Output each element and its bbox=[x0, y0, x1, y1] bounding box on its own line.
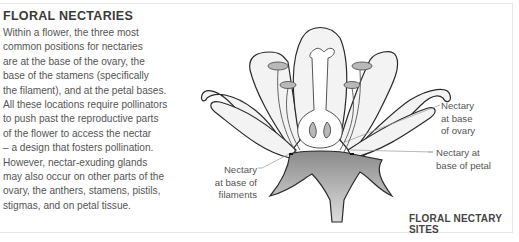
label-line: at base of bbox=[197, 177, 257, 190]
label-line: Nectary bbox=[441, 100, 475, 113]
label-nectary-ovary: Nectary at base of ovary bbox=[441, 100, 475, 138]
label-nectary-petal: Nectary at base of petal bbox=[436, 147, 491, 172]
receptacle bbox=[270, 151, 392, 222]
label-line: filaments bbox=[197, 189, 257, 202]
label-line: Nectary bbox=[197, 164, 257, 177]
label-line: base of petal bbox=[436, 160, 491, 173]
figure-caption: FLORAL NECTARY SITES bbox=[409, 213, 519, 235]
label-nectary-filaments: Nectary at base of filaments bbox=[197, 164, 257, 202]
label-line: of ovary bbox=[441, 125, 475, 138]
label-line: at base bbox=[441, 113, 475, 126]
label-line: Nectary at bbox=[436, 147, 491, 160]
